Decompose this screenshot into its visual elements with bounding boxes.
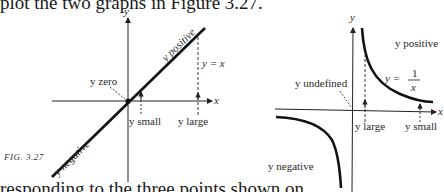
label-y-negative: y negative <box>50 138 91 179</box>
label-y-small: y small <box>129 115 161 127</box>
label-y-positive: y positive <box>395 37 438 49</box>
label-equation-den: x <box>410 81 416 93</box>
y-axis-label: y <box>123 5 129 17</box>
label-y-large: y large <box>178 115 208 127</box>
label-y-positive: y positive <box>158 26 197 64</box>
left-graph-linear: y x y zero y small y large y = x y posit… <box>50 5 224 182</box>
label-y-large: y large <box>355 120 385 132</box>
right-graph-reciprocal: y x y positive y undefined y = 1 x y lar… <box>268 11 443 192</box>
origin-point <box>125 98 130 103</box>
label-y-zero: y zero <box>90 75 118 87</box>
label-y-small: y small <box>405 120 437 132</box>
label-y-undefined: y undefined <box>295 77 348 89</box>
label-equation-lhs: y = <box>384 72 400 84</box>
body-text-bottom: responding to the three points shown on <box>0 178 304 192</box>
y-axis <box>352 28 353 192</box>
x-axis <box>275 109 436 112</box>
label-equation-num: 1 <box>412 67 418 79</box>
y-axis-label: y <box>349 11 355 23</box>
x-axis-label: x <box>213 94 219 106</box>
x-axis-label: x <box>437 105 443 117</box>
label-y-equals-x: y = x <box>201 57 225 69</box>
figure-caption: FIG. 3.27 <box>3 152 44 162</box>
label-y-negative: y negative <box>268 160 314 172</box>
figure-3-27: y x y zero y small y large y = x y posit… <box>0 0 444 192</box>
